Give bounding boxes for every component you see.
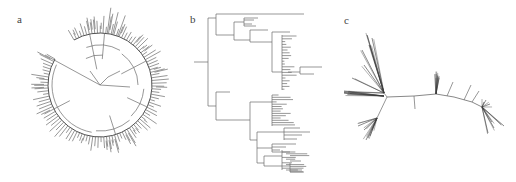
circular-tree-svg bbox=[0, 0, 172, 182]
panel-b-rectangular-tree: b bbox=[172, 0, 344, 182]
panel-c-unrooted-tree: c bbox=[344, 0, 516, 182]
rectangular-tree-svg bbox=[172, 0, 344, 182]
unrooted-tree-svg bbox=[344, 0, 516, 182]
panel-a-circular-tree: a bbox=[0, 0, 172, 182]
